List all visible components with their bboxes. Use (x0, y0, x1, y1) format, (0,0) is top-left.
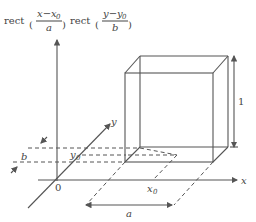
paren-open-2: ( (95, 19, 99, 30)
a-label: a (126, 208, 132, 219)
y0-label: y (69, 149, 76, 160)
height-label: 1 (238, 96, 244, 107)
x0-dashed-diag (153, 155, 177, 180)
x0-sub: 0 (153, 188, 158, 196)
paren-close-2: ) (128, 19, 132, 30)
numerator-2-sub: 0 (122, 13, 127, 21)
b-arrow-top (41, 137, 47, 143)
formula-title: rect ( x−x 0 a ) rect ( y−y 0 b ) (4, 8, 132, 33)
b-arrow-bottom (11, 167, 17, 173)
rect-func-2: rect (70, 15, 90, 26)
origin-label: 0 (55, 182, 61, 193)
numerator-1-sub: 0 (56, 13, 61, 21)
y0-sub: 0 (76, 154, 81, 162)
y-axis-label: y (110, 116, 117, 127)
numerator-2: y−y (102, 8, 123, 19)
numerator-1: x−x (37, 8, 57, 19)
a-dashed-left (86, 162, 125, 205)
denominator-2: b (112, 22, 118, 33)
rect-function-diagram: rect ( x−x 0 a ) rect ( y−y 0 b ) x y 0 (0, 0, 256, 222)
x-axis-label: x (241, 175, 247, 186)
paren-close-1: ) (62, 19, 66, 30)
rect-box (125, 56, 228, 162)
paren-open-1: ( (29, 19, 33, 30)
y-axis (28, 124, 110, 208)
a-dashed-right (174, 162, 213, 205)
denominator-1: a (46, 22, 52, 33)
rect-func-1: rect (4, 15, 24, 26)
b-label: b (21, 151, 27, 162)
